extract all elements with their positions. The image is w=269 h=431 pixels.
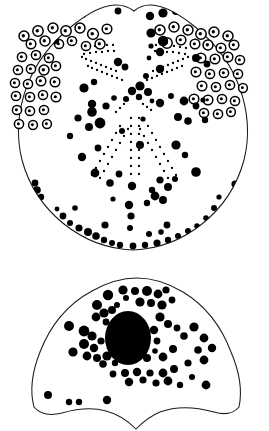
areolate-tubercle	[210, 54, 220, 64]
areolate-tubercle	[223, 52, 233, 62]
ambulacral-pore	[138, 117, 140, 119]
areolate-tubercle	[25, 106, 34, 115]
primary-tubercle	[158, 229, 164, 235]
primary-tubercle	[156, 99, 164, 107]
posterior-tubercle	[93, 354, 101, 362]
posterior-tubercle	[102, 351, 111, 360]
tubercle-mamelon	[216, 112, 219, 115]
tubercle-mamelon	[212, 30, 215, 33]
ambulacral-pore	[138, 157, 140, 159]
posterior-tubercle	[154, 290, 163, 299]
areolate-tubercle	[33, 26, 43, 36]
primary-tubercle	[91, 79, 97, 85]
figure-root	[0, 0, 269, 431]
ambulacral-pore	[113, 50, 115, 52]
areolate-tubercle	[227, 108, 236, 117]
tubercle-mamelon	[222, 71, 225, 74]
areolate-tubercle	[190, 39, 200, 49]
posterior-tubercle	[68, 347, 77, 356]
ambulacral-pore	[163, 170, 165, 172]
posterior-tubercle	[159, 353, 168, 362]
ambulacral-pore	[83, 53, 85, 55]
posterior-tubercle	[66, 399, 72, 405]
ambulacral-pore	[163, 153, 165, 155]
areolate-tubercle	[23, 79, 32, 88]
ambulacral-pore	[130, 133, 132, 135]
posterior-tubercle	[112, 360, 118, 366]
posterior-tubercle	[146, 369, 153, 376]
posterior-tubercle	[189, 322, 198, 331]
tubercle-mamelon	[226, 55, 229, 58]
posterior-tubercle	[143, 354, 151, 362]
posterior-tubercle	[99, 360, 107, 368]
posterior-tubercle	[110, 371, 117, 378]
primary-tubercle	[88, 100, 96, 108]
posterior-tubercle	[87, 331, 96, 340]
tubercle-mamelon	[13, 81, 16, 84]
ambulacral-pore	[111, 75, 113, 77]
areolate-tubercle	[44, 53, 53, 62]
ambulacral-pore	[116, 77, 118, 79]
ambulacral-pore	[103, 170, 105, 172]
primary-tubercle	[146, 231, 152, 237]
tubercle-mamelon	[14, 94, 17, 97]
primary-tubercle	[159, 196, 167, 204]
ambulacral-pore	[95, 62, 97, 64]
ambulacral-pore	[119, 125, 121, 127]
tubercle-mamelon	[199, 32, 202, 35]
primary-tubercle	[123, 96, 129, 102]
areolate-tubercle	[199, 108, 208, 117]
ambulacral-pore	[151, 149, 153, 151]
primary-tubercle	[136, 141, 144, 149]
tubercle-mamelon	[29, 67, 32, 70]
posterior-tubercle	[99, 308, 108, 317]
primary-tubercle	[146, 28, 155, 37]
areolate-tubercle	[169, 22, 179, 32]
ambulacral-pore	[101, 71, 103, 73]
ambulacral-pore	[115, 132, 117, 134]
tubercle-mamelon	[202, 111, 205, 114]
ambulacral-pore	[155, 156, 157, 158]
tubercle-mamelon	[208, 72, 211, 75]
areolate-tubercle	[155, 25, 165, 35]
primary-tubercle	[109, 240, 115, 246]
primary-tubercle	[116, 171, 123, 178]
tubercle-mamelon	[15, 108, 18, 111]
ambulacral-pore	[87, 65, 89, 67]
areolate-tubercle	[51, 61, 60, 70]
primary-tubercle	[102, 102, 109, 109]
ambulacral-pore	[167, 160, 169, 162]
posterior-tubercle	[114, 302, 120, 308]
primary-tubercle	[164, 222, 171, 229]
tubercle-mamelon	[179, 38, 182, 41]
ambulacral-pore	[123, 103, 125, 105]
ambulacral-pore	[130, 125, 132, 127]
primary-tubercle	[106, 179, 114, 187]
ambulacral-pore	[107, 50, 109, 52]
ambulacral-pore	[172, 62, 174, 64]
ambulacral-pore	[182, 58, 184, 60]
primary-tubercle	[150, 99, 155, 104]
primary-tubercle	[140, 116, 145, 121]
posterior-tubercle	[150, 326, 158, 334]
ambulacral-pore	[138, 165, 140, 167]
areolate-tubercle	[10, 78, 19, 87]
primary-tubercle	[75, 224, 82, 231]
areolate-tubercle	[211, 82, 220, 91]
tubercle-mamelon	[233, 99, 236, 102]
tubercle-mamelon	[98, 42, 101, 45]
areolate-tubercle	[196, 29, 206, 39]
primary-tubercle	[158, 36, 168, 46]
echinoid-test-figure	[0, 0, 269, 431]
tubercle-mamelon	[42, 68, 45, 71]
ambulacral-pore	[96, 69, 98, 71]
posterior-tubercle	[139, 376, 146, 383]
primary-tubercle	[85, 123, 93, 131]
ambulacral-pore	[151, 77, 153, 79]
posterior-tubercle	[169, 297, 176, 304]
areolate-tubercle	[25, 92, 34, 101]
tubercle-mamelon	[47, 56, 50, 59]
primary-tubercle	[101, 221, 108, 228]
tubercle-mamelon	[241, 86, 244, 89]
ambulacral-pore	[150, 109, 152, 111]
